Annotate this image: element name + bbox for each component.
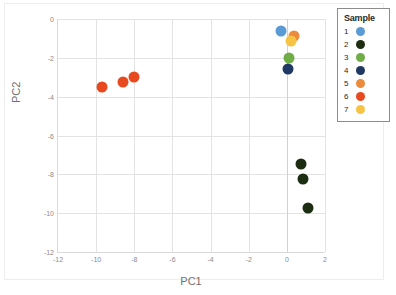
gridline-vertical: [325, 19, 326, 252]
gridline-horizontal: [58, 136, 325, 137]
gridline-horizontal: [58, 174, 325, 175]
legend-item-label: 3: [344, 53, 356, 62]
legend-item-7[interactable]: 7: [344, 103, 384, 116]
legend-swatch-icon: [356, 27, 365, 36]
data-point-sample-2[interactable]: [298, 174, 309, 185]
x-axis-tick-label: -2: [246, 256, 252, 263]
legend-item-label: 4: [344, 66, 356, 75]
y-axis-tick-label: -12: [44, 249, 54, 256]
legend-item-3[interactable]: 3: [344, 51, 384, 64]
x-axis-title: PC1: [57, 275, 325, 287]
data-point-sample-6[interactable]: [117, 77, 128, 88]
x-axis-tick-label: -8: [131, 256, 137, 263]
legend-item-4[interactable]: 4: [344, 64, 384, 77]
data-point-sample-4[interactable]: [282, 64, 293, 75]
data-point-sample-6[interactable]: [96, 81, 107, 92]
legend-item-2[interactable]: 2: [344, 38, 384, 51]
chart-canvas: 0-2-4-6-8-10-12-12-10-8-6-4-202 PC1 PC2 …: [0, 0, 396, 295]
data-point-sample-3[interactable]: [283, 52, 294, 63]
y-axis-tick-label: 0: [50, 16, 54, 23]
x-axis-tick-label: -6: [169, 256, 175, 263]
legend-item-label: 6: [344, 92, 356, 101]
data-point-sample-6[interactable]: [129, 72, 140, 83]
gridline-vertical: [249, 19, 250, 252]
x-axis-tick-label: 0: [285, 256, 289, 263]
legend-item-label: 7: [344, 105, 356, 114]
legend-item-label: 2: [344, 40, 356, 49]
data-point-sample-7[interactable]: [285, 36, 296, 47]
legend-items: 1234567: [344, 25, 384, 116]
legend-item-label: 5: [344, 79, 356, 88]
gridline-vertical: [211, 19, 212, 252]
x-axis-tick-label: -4: [207, 256, 213, 263]
legend-swatch-icon: [356, 53, 365, 62]
legend-swatch-icon: [356, 105, 365, 114]
legend-item-6[interactable]: 6: [344, 90, 384, 103]
legend-item-5[interactable]: 5: [344, 77, 384, 90]
x-axis-tick-label: -12: [53, 256, 63, 263]
legend-swatch-icon: [356, 66, 365, 75]
gridline-horizontal: [58, 97, 325, 98]
x-axis-tick-label: -10: [91, 256, 101, 263]
legend-swatch-icon: [356, 40, 365, 49]
y-axis-tick-label: -2: [48, 54, 54, 61]
legend: Sample 1234567: [337, 8, 390, 122]
gridline-vertical: [96, 19, 97, 252]
y-axis-tick-label: -10: [44, 210, 54, 217]
legend-item-label: 1: [344, 27, 356, 36]
plot-area: 0-2-4-6-8-10-12-12-10-8-6-4-202: [57, 19, 325, 253]
legend-title: Sample: [344, 13, 384, 23]
legend-swatch-icon: [356, 79, 365, 88]
gridline-horizontal: [58, 213, 325, 214]
x-axis-tick-label: 2: [323, 256, 327, 263]
data-point-sample-2[interactable]: [302, 203, 313, 214]
gridline-vertical: [172, 19, 173, 252]
y-axis-tick-label: -8: [48, 171, 54, 178]
legend-item-1[interactable]: 1: [344, 25, 384, 38]
y-axis-tick-label: -6: [48, 132, 54, 139]
gridline-horizontal: [58, 19, 325, 20]
y-axis-title: PC2: [10, 82, 22, 103]
legend-swatch-icon: [356, 92, 365, 101]
gridline-vertical: [134, 19, 135, 252]
scatter-chart: 0-2-4-6-8-10-12-12-10-8-6-4-202 PC1 PC2: [8, 7, 330, 275]
data-point-sample-2[interactable]: [296, 158, 307, 169]
y-axis-tick-label: -4: [48, 93, 54, 100]
data-point-sample-1[interactable]: [276, 25, 287, 36]
